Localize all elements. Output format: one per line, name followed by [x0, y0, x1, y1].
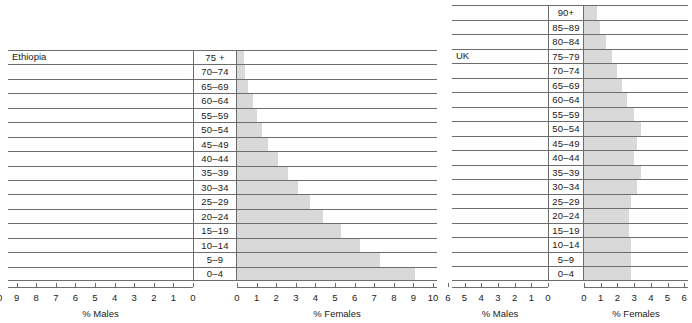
age-label: 35–39 [552, 168, 579, 178]
x-tick-female [651, 283, 652, 287]
age-label: 45–49 [201, 140, 228, 150]
x-tick-label-male: 1 [529, 293, 534, 303]
x-tick-female [684, 283, 685, 287]
male-bar-area [452, 151, 548, 165]
age-label: 70–74 [552, 66, 579, 76]
bar-female [584, 195, 631, 209]
age-label-box: 85–89 [548, 21, 584, 35]
bar-female [584, 93, 627, 107]
female-bar-area [584, 180, 688, 194]
bar-female [237, 224, 341, 237]
x-tick-label-female: 3 [631, 293, 636, 303]
female-bar-area [584, 253, 688, 267]
age-label-box: 65–69 [193, 80, 237, 93]
age-row: 10–14 [452, 237, 688, 252]
age-label: 70–74 [201, 67, 228, 77]
x-tick-label-male: 3 [495, 293, 500, 303]
age-row: 40–44 [452, 150, 688, 165]
age-row: 90+ [452, 5, 688, 20]
female-bar-area [584, 50, 688, 64]
age-label: 55–59 [552, 110, 579, 120]
age-label: 25–29 [201, 197, 228, 207]
x-tick-male [515, 283, 516, 287]
age-label-box: 5–9 [548, 253, 584, 267]
male-bar-area [452, 64, 548, 78]
bar-female [237, 253, 380, 266]
age-label-box: 50–54 [548, 122, 584, 136]
x-tick-female [601, 283, 602, 287]
x-tick-female [617, 283, 618, 287]
age-label-box: 60–64 [548, 93, 584, 107]
age-label: 40–44 [552, 153, 579, 163]
male-bar-area [452, 195, 548, 209]
age-label: 35–39 [201, 168, 228, 178]
bar-female [584, 166, 641, 180]
age-row: 55–59 [452, 107, 688, 122]
age-label: 40–44 [201, 154, 228, 164]
female-bar-area [584, 166, 688, 180]
male-bar-area [452, 224, 548, 238]
female-bar-area [584, 21, 688, 35]
male-bar-area [452, 180, 548, 194]
age-label-box: 90+ [548, 6, 584, 20]
age-label-box: 55–59 [193, 109, 237, 122]
bar-female [584, 64, 617, 78]
x-tick-label-female: 0 [581, 293, 586, 303]
male-bar-area [452, 108, 548, 122]
x-tick-label-male: 2 [512, 293, 517, 303]
age-row: 85–89 [452, 20, 688, 35]
age-label: 75 + [205, 53, 225, 63]
age-label: 55–59 [201, 111, 228, 121]
x-tick-label-male: 5 [462, 293, 467, 303]
bar-female [237, 80, 248, 93]
male-bar-area [452, 122, 548, 136]
age-label: 5–9 [558, 255, 574, 265]
bar-female [584, 50, 612, 64]
age-label: 10–14 [552, 240, 579, 250]
x-tick-male [498, 283, 499, 287]
age-label-box: 55–59 [548, 108, 584, 122]
x-axis-male-uk [452, 287, 548, 288]
x-tick-male [531, 283, 532, 287]
bar-female [584, 209, 629, 223]
bar-female [584, 238, 631, 252]
age-label: 65–69 [552, 81, 579, 91]
male-bar-area [452, 93, 548, 107]
age-label-box: 30–34 [548, 180, 584, 194]
population-pyramid-figure: 75 +70–7465–6960–6455–5950–5445–4940–443… [0, 0, 692, 323]
bar-female [584, 137, 637, 151]
age-label-box: 25–29 [548, 195, 584, 209]
x-axis-title-female-uk: % Females [612, 309, 660, 319]
female-bar-area [584, 267, 688, 280]
bar-female [584, 108, 634, 122]
bar-female [584, 180, 637, 194]
bar-female [584, 224, 629, 238]
age-label: 0–4 [558, 269, 574, 279]
bar-female [237, 65, 245, 78]
x-tick-label-male: 4 [479, 293, 484, 303]
x-tick-label-female: 5 [665, 293, 670, 303]
age-label: 45–49 [552, 139, 579, 149]
bar-female [237, 51, 244, 64]
female-bar-area [237, 268, 437, 280]
age-row: 75–79 [452, 49, 688, 64]
bar-female [584, 122, 641, 136]
age-row: 45–49 [452, 136, 688, 151]
bar-female [237, 94, 253, 107]
x-tick-label-male: 0 [545, 293, 550, 303]
bar-female [584, 35, 606, 49]
female-bar-area [584, 224, 688, 238]
age-label-box: 20–24 [548, 209, 584, 223]
age-label: 50–54 [201, 125, 228, 135]
female-bar-area [584, 151, 688, 165]
female-bar-area [584, 195, 688, 209]
age-label-box: 15–19 [193, 224, 237, 237]
x-tick-label-male: 6 [445, 293, 450, 303]
age-label-box: 35–39 [548, 166, 584, 180]
age-label: 75–79 [552, 52, 579, 62]
bar-female [237, 268, 415, 280]
x-tick-male [465, 283, 466, 287]
age-label: 0–4 [207, 269, 223, 279]
x-tick-male [548, 283, 549, 287]
female-bar-area [584, 35, 688, 49]
